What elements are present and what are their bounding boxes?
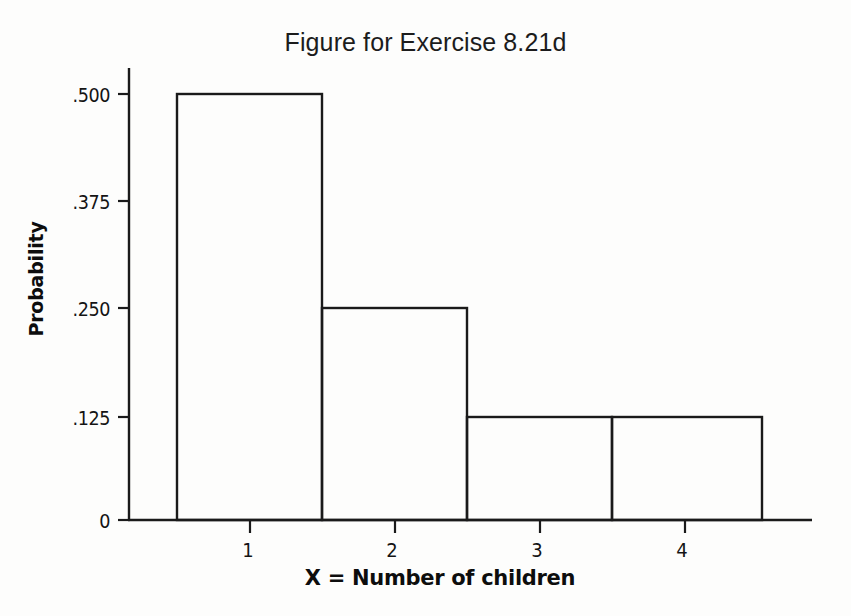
y-tick-label-500: .500 xyxy=(48,83,110,107)
x-tick-label-1: 1 xyxy=(230,538,266,562)
bar-x-2 xyxy=(322,308,467,520)
bar-x-3 xyxy=(467,417,612,520)
y-tick-label-0: 0 xyxy=(48,509,110,533)
y-tick-label-125: .125 xyxy=(48,406,110,430)
bar-x-1 xyxy=(177,94,322,520)
bar-x-4 xyxy=(612,417,762,520)
x-tick-label-4: 4 xyxy=(664,538,700,562)
x-axis-title: X = Number of children xyxy=(240,566,640,590)
chart-plot-area xyxy=(0,0,851,616)
bar-series xyxy=(177,94,762,520)
x-tick-label-3: 3 xyxy=(519,538,555,562)
y-tick-label-250: .250 xyxy=(48,297,110,321)
y-axis-title: Probability xyxy=(25,199,47,359)
figure-container: Figure for Exercise 8.21d xyxy=(0,0,851,616)
y-tick-label-375: .375 xyxy=(48,190,110,214)
x-axis-ticks xyxy=(250,520,685,533)
x-tick-label-2: 2 xyxy=(374,538,410,562)
